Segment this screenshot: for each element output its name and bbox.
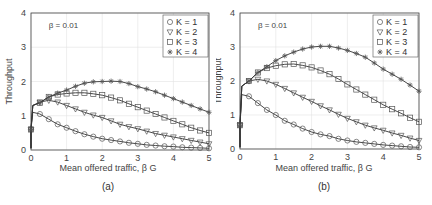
asterisk-marker bbox=[37, 100, 42, 105]
asterisk-marker bbox=[372, 60, 377, 65]
asterisk-marker bbox=[354, 51, 359, 56]
svg-text:1: 1 bbox=[230, 110, 235, 120]
legend-label: K = 3 bbox=[386, 37, 407, 47]
svg-text:2: 2 bbox=[21, 77, 26, 87]
asterisk-marker bbox=[180, 99, 185, 104]
svg-text:0: 0 bbox=[28, 153, 33, 163]
legend: K = 1K = 2K = 3K = 4 bbox=[373, 15, 418, 57]
x-axis-label-b: Mean offered traffic, β G bbox=[216, 163, 432, 173]
chart-svg-a: 01234501234Throughputβ = 0.01K = 1K = 2K… bbox=[0, 0, 216, 205]
legend-label: K = 4 bbox=[386, 47, 407, 57]
svg-text:0: 0 bbox=[237, 152, 242, 162]
svg-text:5: 5 bbox=[206, 153, 211, 163]
asterisk-marker bbox=[144, 86, 149, 91]
svg-text:4: 4 bbox=[21, 8, 26, 18]
legend: K = 1K = 2K = 3K = 4 bbox=[163, 15, 208, 57]
asterisk-marker bbox=[153, 89, 158, 94]
asterisk-marker bbox=[46, 94, 51, 99]
series-k=1 bbox=[237, 94, 421, 150]
asterisk-marker bbox=[198, 106, 203, 111]
asterisk-marker bbox=[273, 58, 278, 63]
asterisk-marker bbox=[109, 79, 114, 84]
asterisk-marker bbox=[336, 45, 341, 50]
asterisk-marker bbox=[167, 49, 172, 54]
beta-annotation: β = 0.01 bbox=[49, 21, 79, 30]
asterisk-marker bbox=[381, 67, 386, 72]
svg-text:2: 2 bbox=[309, 152, 314, 162]
asterisk-marker bbox=[416, 89, 421, 94]
asterisk-marker bbox=[91, 79, 96, 84]
asterisk-marker bbox=[189, 103, 194, 108]
legend-label: K = 2 bbox=[176, 27, 197, 37]
svg-text:2: 2 bbox=[230, 76, 235, 86]
asterisk-marker bbox=[291, 50, 296, 55]
asterisk-marker bbox=[255, 70, 260, 75]
asterisk-marker bbox=[100, 79, 105, 84]
series-k=3 bbox=[28, 90, 211, 148]
asterisk-marker bbox=[407, 82, 412, 87]
series-k=1 bbox=[28, 111, 211, 150]
asterisk-marker bbox=[327, 44, 332, 49]
asterisk-marker bbox=[64, 87, 69, 92]
asterisk-marker bbox=[390, 72, 395, 77]
svg-text:3: 3 bbox=[21, 42, 26, 52]
legend-label: K = 1 bbox=[386, 17, 407, 27]
svg-text:4: 4 bbox=[171, 153, 176, 163]
asterisk-marker bbox=[206, 110, 211, 115]
legend-label: K = 1 bbox=[176, 17, 197, 27]
asterisk-marker bbox=[73, 84, 78, 89]
svg-text:0: 0 bbox=[230, 144, 235, 154]
chart-panel-b: 01234501234Throughputβ = 0.01K = 1K = 2K… bbox=[216, 0, 432, 205]
svg-text:4: 4 bbox=[230, 8, 235, 18]
asterisk-marker bbox=[162, 93, 167, 98]
y-axis-label: Throughput bbox=[216, 57, 223, 104]
asterisk-marker bbox=[377, 49, 382, 54]
y-axis-label: Throughput bbox=[4, 58, 14, 105]
asterisk-marker bbox=[126, 81, 131, 86]
svg-text:1: 1 bbox=[273, 152, 278, 162]
svg-text:2: 2 bbox=[100, 153, 105, 163]
beta-annotation: β = 0.01 bbox=[258, 21, 288, 30]
asterisk-marker bbox=[309, 44, 314, 49]
asterisk-marker bbox=[117, 79, 122, 84]
legend-label: K = 3 bbox=[176, 37, 197, 47]
legend-label: K = 2 bbox=[386, 27, 407, 37]
chart-panel-a: 01234501234Throughputβ = 0.01K = 1K = 2K… bbox=[0, 0, 216, 205]
asterisk-marker bbox=[135, 84, 140, 89]
asterisk-marker bbox=[171, 96, 176, 101]
series-k=4 bbox=[237, 44, 421, 148]
svg-text:3: 3 bbox=[345, 152, 350, 162]
asterisk-marker bbox=[345, 48, 350, 53]
series-k=2 bbox=[237, 77, 422, 147]
chart-svg-b: 01234501234Throughputβ = 0.01K = 1K = 2K… bbox=[216, 0, 432, 205]
svg-text:3: 3 bbox=[135, 153, 140, 163]
legend-label: K = 4 bbox=[176, 47, 197, 57]
panel-caption-a: (a) bbox=[0, 181, 216, 192]
asterisk-marker bbox=[82, 81, 87, 86]
asterisk-marker bbox=[318, 44, 323, 49]
svg-text:1: 1 bbox=[64, 153, 69, 163]
panel-caption-b: (b) bbox=[216, 181, 432, 192]
asterisk-marker bbox=[282, 53, 287, 58]
svg-text:1: 1 bbox=[21, 111, 26, 121]
asterisk-marker bbox=[28, 127, 33, 132]
svg-text:0: 0 bbox=[21, 145, 26, 155]
asterisk-marker bbox=[363, 55, 368, 60]
svg-text:3: 3 bbox=[230, 42, 235, 52]
x-axis-label-a: Mean offered traffic, β G bbox=[0, 163, 216, 173]
svg-text:4: 4 bbox=[381, 152, 386, 162]
svg-text:5: 5 bbox=[416, 152, 421, 162]
